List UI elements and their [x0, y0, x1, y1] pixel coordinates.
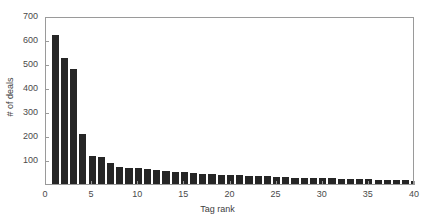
- bar-series: [46, 18, 413, 184]
- plot-area: [45, 17, 414, 185]
- x-tick-label: 0: [30, 190, 60, 199]
- bar: [282, 177, 289, 184]
- bar: [384, 180, 391, 184]
- bar: [236, 175, 243, 184]
- bar: [208, 174, 215, 184]
- bar: [61, 58, 68, 184]
- y-tick-label: 600: [0, 36, 38, 45]
- bar: [393, 180, 400, 184]
- x-tick-label: 40: [399, 190, 429, 199]
- bar: [328, 178, 335, 184]
- bar: [347, 179, 354, 184]
- x-tick-mark: [230, 181, 231, 185]
- bar: [172, 172, 179, 184]
- x-tick-label: 20: [215, 190, 245, 199]
- bar: [375, 180, 382, 184]
- x-tick-mark: [368, 181, 369, 185]
- bar: [153, 170, 160, 184]
- y-tick-label: 700: [0, 12, 38, 21]
- bar: [107, 163, 114, 184]
- y-tick-mark: [45, 65, 49, 66]
- bar: [218, 175, 225, 184]
- y-tick-mark: [45, 89, 49, 90]
- x-tick-label: 35: [353, 190, 383, 199]
- bar: [338, 179, 345, 184]
- bar: [310, 178, 317, 184]
- figure-canvas: 100200300400500600700 0510152025303540 #…: [0, 0, 435, 223]
- bar: [356, 179, 363, 184]
- x-tick-label: 5: [76, 190, 106, 199]
- bar: [411, 181, 413, 184]
- bar: [98, 157, 105, 184]
- bar: [255, 176, 262, 184]
- y-tick-label: 200: [0, 132, 38, 141]
- x-tick-mark: [276, 181, 277, 185]
- bar: [190, 173, 197, 184]
- x-tick-mark: [414, 181, 415, 185]
- y-tick-mark: [45, 113, 49, 114]
- y-axis-title: # of deals: [5, 61, 15, 133]
- x-tick-label: 15: [168, 190, 198, 199]
- y-tick-mark: [45, 41, 49, 42]
- x-tick-mark: [322, 181, 323, 185]
- y-tick-mark: [45, 17, 49, 18]
- bar: [125, 168, 132, 184]
- bar: [89, 156, 96, 184]
- bar: [199, 174, 206, 184]
- y-tick-label: 100: [0, 156, 38, 165]
- x-tick-mark: [183, 181, 184, 185]
- bar: [116, 167, 123, 184]
- bar: [245, 176, 252, 184]
- bar: [52, 35, 59, 184]
- bar: [301, 178, 308, 184]
- bar: [144, 169, 151, 184]
- x-axis-title: Tag rank: [0, 204, 435, 214]
- y-tick-mark: [45, 137, 49, 138]
- bar: [291, 178, 298, 184]
- x-tick-mark: [91, 181, 92, 185]
- bar: [70, 69, 77, 184]
- x-tick-label: 10: [122, 190, 152, 199]
- x-tick-label: 30: [307, 190, 337, 199]
- bar: [264, 176, 271, 184]
- x-tick-mark: [137, 181, 138, 185]
- bar: [79, 134, 86, 184]
- y-tick-mark: [45, 161, 49, 162]
- bar: [162, 171, 169, 184]
- x-tick-label: 25: [261, 190, 291, 199]
- bar: [402, 180, 409, 184]
- x-tick-mark: [45, 181, 46, 185]
